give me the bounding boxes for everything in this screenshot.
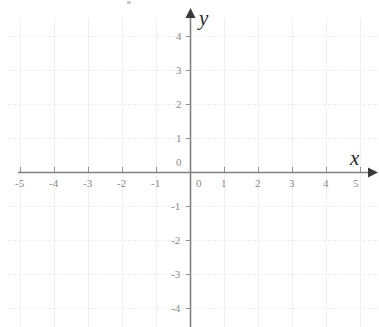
y-tick-label-2: 2 <box>176 99 182 110</box>
scan-artifact-speck <box>127 1 131 4</box>
x-tick-label--4: -4 <box>49 178 58 189</box>
axes-layer <box>0 0 379 327</box>
x-axis-arrowhead <box>368 168 378 178</box>
y-tick-label-3: 3 <box>176 65 182 76</box>
x-tick-label-4: 4 <box>323 178 329 189</box>
y-tick-label--4: -4 <box>171 303 180 314</box>
y-tick-label--1: -1 <box>171 201 180 212</box>
x-axis-title: x <box>350 148 359 169</box>
x-tick-label-1: 1 <box>221 178 227 189</box>
x-tick-label-2: 2 <box>255 178 261 189</box>
x-tick-label--1: -1 <box>151 178 160 189</box>
x-tick-label--3: -3 <box>83 178 92 189</box>
x-tick-label--2: -2 <box>117 178 126 189</box>
y-tick-label--3: -3 <box>171 269 180 280</box>
y-axis-arrowhead <box>186 8 196 18</box>
x-tick-label-5: 5 <box>353 178 359 189</box>
y-tick-label-4: 4 <box>176 31 182 42</box>
y-tick-label--2: -2 <box>171 235 180 246</box>
x-tick-label-3: 3 <box>289 178 295 189</box>
coordinate-plane-figure: -5 -4 -3 -2 -1 0 1 2 3 4 5 4 3 2 1 0 -1 … <box>0 0 379 327</box>
x-tick-label-0: 0 <box>196 178 202 189</box>
y-axis-title: y <box>199 8 208 29</box>
y-tick-label-0: 0 <box>176 157 182 168</box>
x-tick-label--5: -5 <box>15 178 24 189</box>
y-tick-label-1: 1 <box>176 133 182 144</box>
